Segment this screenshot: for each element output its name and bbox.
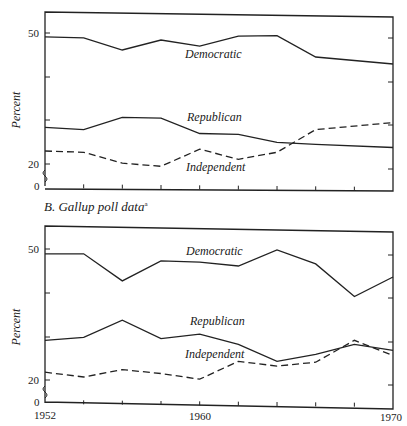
y-tick-0: 0 — [34, 396, 40, 408]
panel-b: 50 20 0 Percent Democratic Republican In… — [9, 226, 403, 423]
y-axis-label: Percent — [9, 91, 23, 130]
caption-text: B. Gallup poll data — [44, 199, 144, 214]
label-independent: Independent — [184, 347, 245, 361]
x-tick-1960: 1960 — [189, 410, 212, 422]
y-tick-0: 0 — [34, 180, 40, 192]
y-tick-50: 50 — [28, 27, 40, 39]
x-tick-1952: 1952 — [34, 409, 56, 421]
y-axis-label: Percent — [9, 308, 23, 347]
x-tick-1970: 1970 — [380, 411, 403, 423]
footnote-marker: a — [144, 200, 147, 208]
label-independent: Independent — [185, 160, 246, 174]
y-tick-50: 50 — [28, 243, 40, 255]
label-republican: Republican — [189, 314, 245, 328]
panel-b-caption: B. Gallup poll dataa — [44, 199, 148, 215]
y-tick-20: 20 — [28, 374, 40, 386]
label-democratic: Democratic — [185, 244, 243, 258]
label-republican: Republican — [186, 110, 242, 124]
y-tick-20: 20 — [28, 158, 40, 170]
label-democratic: Democratic — [184, 47, 242, 61]
panel-a: 50 20 0 Percent Democratic Republican In… — [9, 12, 393, 192]
